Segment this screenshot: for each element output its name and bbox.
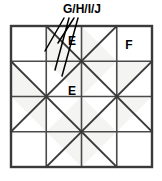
quilt-block-diagram: EEF G/H/I/J — [0, 0, 162, 181]
label-f: F — [125, 38, 132, 52]
quilt-diagram-canvas: EEF G/H/I/J — [0, 0, 162, 181]
callout-label-ghij: G/H/I/J — [63, 2, 101, 16]
label-e-top: E — [68, 34, 76, 48]
label-e-middle: E — [68, 84, 76, 98]
